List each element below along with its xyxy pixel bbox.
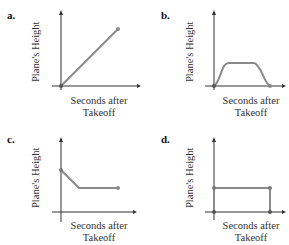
data-line-c (61, 170, 118, 188)
data-point (116, 186, 120, 190)
data-line-a (61, 29, 118, 86)
data-point (212, 84, 216, 88)
x-axis-label-c: Seconds after Takeoff (59, 220, 139, 244)
chart-panel-a: a. Plane's Height Seconds after Takeoff (0, 0, 144, 122)
data-point (212, 186, 216, 190)
x-axis-arrow-icon (282, 84, 286, 88)
data-point (268, 84, 272, 88)
data-line-d (214, 188, 270, 212)
data-line-b (214, 63, 270, 86)
data-point (59, 168, 63, 172)
x-axis-label-b: Seconds after Takeoff (211, 95, 289, 119)
x-axis-arrow-icon (137, 84, 141, 88)
chart-panel-b: b. Plane's Height Seconds after Takeoff (145, 0, 289, 122)
y-axis-arrow-icon (212, 137, 216, 142)
data-point (116, 27, 120, 31)
y-axis-arrow-icon (59, 137, 63, 142)
chart-panel-c: c. Plane's Height Seconds after Takeoff (0, 122, 144, 244)
x-axis-arrow-icon (133, 210, 137, 214)
y-axis-arrow-icon (59, 10, 63, 15)
data-point (268, 210, 272, 214)
x-axis-label-d: Seconds after Takeoff (211, 220, 289, 244)
y-axis-arrow-icon (212, 10, 216, 15)
chart-panel-d: d. Plane's Height Seconds after Takeoff (145, 122, 289, 244)
x-axis-label-a: Seconds after Takeoff (59, 95, 139, 119)
data-point (212, 210, 216, 214)
data-point (268, 186, 272, 190)
x-axis-arrow-icon (282, 210, 286, 214)
data-point (59, 84, 63, 88)
